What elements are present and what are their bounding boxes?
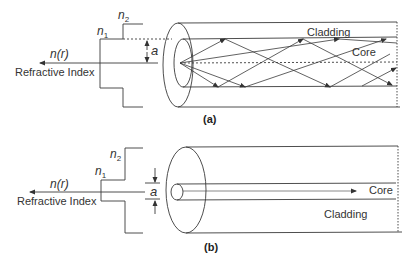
index-axis-title-b: Refractive Index	[17, 196, 96, 207]
core-label-b: Core	[369, 185, 393, 196]
index-axis-title-a: Refractive Index	[15, 67, 94, 78]
n2-label-a: n2	[118, 9, 129, 24]
n2-label-b: n2	[110, 148, 121, 163]
fiber-diagram	[0, 0, 414, 263]
radius-label-b: a	[150, 185, 157, 198]
core-label-a: Core	[352, 47, 376, 58]
axis-centerline-a	[180, 62, 397, 63]
index-axis-label-a: n(r)	[50, 48, 69, 60]
cladding-label-a: Cladding	[307, 27, 350, 38]
n1-label-b: n1	[95, 165, 106, 180]
cladding-label-b: Cladding	[324, 209, 367, 220]
core-end-b	[171, 184, 183, 200]
n1-label-a: n1	[97, 25, 108, 40]
cladding-end-b	[166, 147, 206, 233]
caption-a: (a)	[203, 114, 216, 125]
index-axis-label-b: n(r)	[50, 178, 69, 190]
caption-b: (b)	[204, 242, 218, 253]
radius-label-a: a	[151, 44, 158, 57]
index-profile-b	[101, 148, 143, 233]
cladding-end-a	[163, 23, 193, 107]
